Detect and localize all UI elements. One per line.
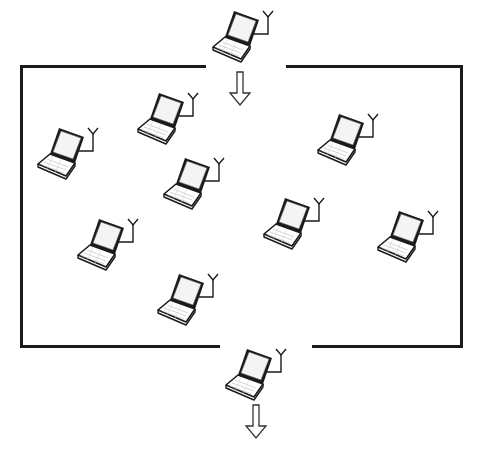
laptop-with-antenna-icon <box>155 271 230 327</box>
laptop-with-antenna-icon <box>35 125 110 181</box>
boundary-top-left <box>20 65 206 68</box>
down-arrow-icon <box>228 71 252 107</box>
boundary-left <box>20 65 23 348</box>
laptop-with-antenna-icon <box>161 155 236 211</box>
laptop-node-n8 <box>155 271 230 327</box>
laptop-node-n3 <box>315 111 390 167</box>
laptop-node-n4 <box>161 155 236 211</box>
outgoing-laptop-node <box>223 346 298 402</box>
boundary-bottom-right <box>312 345 463 348</box>
laptop-node-n6 <box>375 208 450 264</box>
enter-arrow <box>228 71 252 107</box>
laptop-node-n7 <box>75 216 150 272</box>
incoming-laptop-node <box>210 8 285 64</box>
laptop-with-antenna-icon <box>223 346 298 402</box>
laptop-with-antenna-icon <box>375 208 450 264</box>
laptop-with-antenna-icon <box>135 90 210 146</box>
laptop-node-n1 <box>135 90 210 146</box>
laptop-with-antenna-icon <box>210 8 285 64</box>
boundary-bottom-left <box>20 345 220 348</box>
laptop-with-antenna-icon <box>315 111 390 167</box>
exit-arrow <box>244 404 268 440</box>
laptop-with-antenna-icon <box>75 216 150 272</box>
laptop-node-n5 <box>261 195 336 251</box>
down-arrow-icon <box>244 404 268 440</box>
network-diagram <box>0 0 477 457</box>
laptop-node-n2 <box>35 125 110 181</box>
boundary-top-right <box>286 65 463 68</box>
boundary-right <box>460 65 463 348</box>
laptop-with-antenna-icon <box>261 195 336 251</box>
